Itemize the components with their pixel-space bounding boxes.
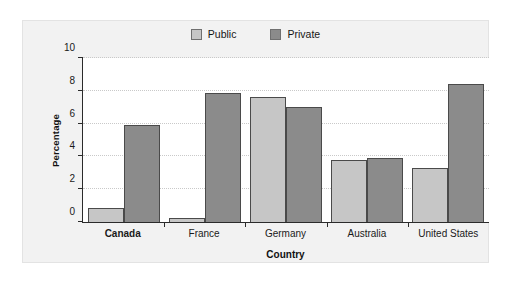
bar-private[interactable] [367,158,403,222]
bar-private[interactable] [124,125,160,222]
legend-swatch-private [270,29,281,40]
bar-group [245,58,326,222]
y-axis-tick-label: 6 [69,107,75,118]
bar-public[interactable] [250,97,286,222]
y-axis-tick-label: 8 [69,74,75,85]
bar-group [408,58,489,222]
bar-public[interactable] [169,218,205,222]
chart-panel: Public Private Percentage 0246810 Canada… [22,20,489,263]
x-axis-label: Australia [326,228,407,239]
y-axis-title: Percentage [49,58,63,223]
plot-wrapper: 0246810 [82,58,489,223]
legend-item-public[interactable]: Public [191,29,237,40]
legend-item-private[interactable]: Private [270,29,320,40]
x-axis-label: Germany [245,228,326,239]
legend-label-private: Private [287,29,320,40]
x-axis-tick [245,222,246,227]
bar-private[interactable] [205,93,241,222]
bar-group [164,58,245,222]
bar-groups [83,58,489,222]
bar-public[interactable] [88,208,124,222]
x-axis-labels: CanadaFranceGermanyAustraliaUnited State… [82,228,489,239]
y-axis-title-text: Percentage [51,114,62,167]
x-axis-tick [408,222,409,227]
x-axis-tick [164,222,165,227]
bar-group [83,58,164,222]
y-axis-tick-label: 0 [69,206,75,217]
bar-private[interactable] [286,107,322,222]
y-axis-tick-label: 4 [69,140,75,151]
bar-group [327,58,408,222]
x-axis-label: United States [408,228,489,239]
y-axis-tick-label: 2 [69,173,75,184]
x-axis-label: France [163,228,244,239]
x-axis-title: Country [82,249,489,260]
y-axis-tick-label: 10 [64,42,75,53]
x-axis-label: Canada [82,228,163,239]
legend-swatch-public [191,29,202,40]
plot-area: 0246810 [82,58,489,223]
x-axis-tick [327,222,328,227]
bar-private[interactable] [448,84,484,222]
legend-label-public: Public [208,29,237,40]
chart-figure: Public Private Percentage 0246810 Canada… [0,0,511,287]
bar-public[interactable] [412,168,448,222]
chart-legend: Public Private [23,29,488,40]
bar-public[interactable] [331,160,367,222]
